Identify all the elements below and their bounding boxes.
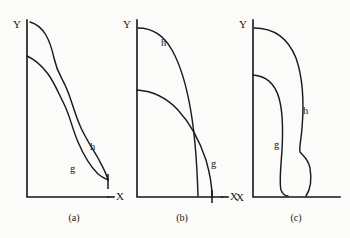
figure-container: Y X h g (a) Y X h g (b) Y X [0,0,350,238]
panel-c-y-axis-label: Y [239,18,247,30]
panel-c: Y X h g (c) [236,18,340,224]
panel-b-curve-g [137,90,212,196]
panel-a-curve-g [27,56,108,180]
panel-b-y-axis-label: Y [123,18,131,30]
panel-a-axes [27,20,108,197]
panel-a-label-g: g [70,163,76,174]
panel-a-y-axis-label: Y [13,18,21,30]
panel-a-label-h: h [90,141,96,152]
panel-a-x-axis-label: X [116,190,124,202]
panel-b: Y X h g (b) [123,18,238,224]
panel-b-label-g: g [211,158,217,169]
figure-svg: Y X h g (a) Y X h g (b) Y X [0,0,350,238]
panel-c-caption: (c) [290,212,301,224]
panel-c-curve-g [253,75,288,196]
panel-c-axes [253,20,340,197]
panel-c-label-g: g [274,139,280,150]
panel-a-caption: (a) [68,212,79,224]
panel-b-label-h: h [161,37,167,48]
panel-b-caption: (b) [176,212,188,224]
panel-a: Y X h g (a) [13,18,124,224]
panel-c-label-h: h [303,105,309,116]
panel-b-curve-h [138,28,198,196]
panel-a-curve-h [30,22,108,180]
panel-c-x-axis-label: X [236,191,244,203]
